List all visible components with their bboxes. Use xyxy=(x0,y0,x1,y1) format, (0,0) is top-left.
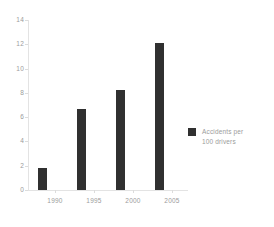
plot-area: 02468101214 1990199520002005 xyxy=(28,20,188,190)
bar-1995 xyxy=(77,109,86,190)
y-axis-tick-label: 2 xyxy=(20,162,24,169)
y-axis-tick-label: 10 xyxy=(16,65,24,72)
y-axis-tick-label: 14 xyxy=(16,17,24,24)
x-tick-mark xyxy=(55,190,56,193)
y-tick-mark xyxy=(25,69,28,70)
x-axis-tick-label: 1995 xyxy=(86,198,101,205)
y-tick-mark xyxy=(25,44,28,45)
bar-1990 xyxy=(38,168,47,190)
legend-label-accidents-per-100-drivers: Accidents per 100 drivers xyxy=(202,127,243,147)
y-axis-tick-label: 4 xyxy=(20,138,24,145)
bar-chart: 02468101214 1990199520002005 Accidents p… xyxy=(0,0,274,227)
y-axis-tick-label: 6 xyxy=(20,114,24,121)
legend: Accidents per 100 drivers xyxy=(188,127,243,147)
x-tick-mark xyxy=(94,190,95,193)
y-axis-line xyxy=(28,20,29,190)
y-tick-mark xyxy=(25,141,28,142)
x-axis-tick-label: 1990 xyxy=(47,198,62,205)
x-axis-tick-label: 2005 xyxy=(164,198,179,205)
x-tick-mark xyxy=(133,190,134,193)
y-tick-mark xyxy=(25,93,28,94)
y-axis-tick-label: 12 xyxy=(16,41,24,48)
legend-swatch-accidents-per-100-drivers xyxy=(188,128,196,136)
y-tick-mark xyxy=(25,20,28,21)
y-tick-mark xyxy=(25,190,28,191)
x-axis-tick-label: 2000 xyxy=(125,198,140,205)
y-axis-tick-label: 8 xyxy=(20,90,24,97)
bar-2005 xyxy=(155,43,164,190)
x-axis-line xyxy=(28,190,188,191)
bar-2000 xyxy=(116,90,125,190)
x-tick-mark xyxy=(172,190,173,193)
y-tick-mark xyxy=(25,166,28,167)
y-tick-mark xyxy=(25,117,28,118)
y-axis-tick-label: 0 xyxy=(20,187,24,194)
